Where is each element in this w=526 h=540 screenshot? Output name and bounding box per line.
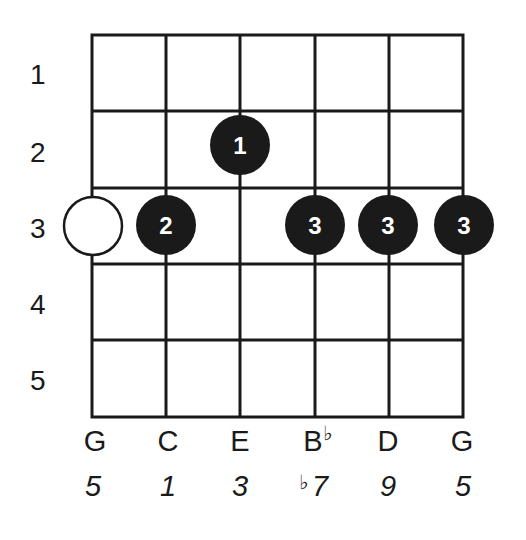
fret-number-4: 4 (30, 289, 46, 320)
interval-label: 3 (232, 470, 248, 502)
fret-number-1: 1 (30, 59, 46, 90)
finger-number: 1 (233, 132, 246, 159)
fret-numbers: 1 2 3 4 5 (30, 59, 46, 396)
note-name: B (303, 425, 322, 457)
interval-label: 5 (455, 470, 472, 502)
finger-dot: 1 (210, 115, 270, 175)
open-root-circle-icon (64, 197, 122, 255)
finger-number: 3 (381, 212, 394, 239)
note-name: E (230, 425, 249, 457)
intervals: 5 1 3 ♭ 7 9 5 (85, 470, 472, 502)
finger-number: 3 (457, 212, 470, 239)
fret-number-3: 3 (30, 213, 46, 244)
finger-dots: 2 1 3 3 3 (64, 115, 494, 255)
note-name: D (378, 425, 399, 457)
note-name: G (451, 425, 474, 457)
note-names: G C E B ♭ D G (84, 421, 474, 457)
interval-label: 9 (380, 470, 396, 502)
chord-diagram: 1 2 3 4 5 2 1 3 3 3 G C E B (0, 0, 526, 540)
interval-label: 1 (160, 470, 176, 502)
interval-label: 7 (312, 470, 330, 502)
finger-dot: 2 (136, 195, 196, 255)
finger-dot: 3 (434, 195, 494, 255)
finger-dot: 3 (285, 195, 345, 255)
flat-accidental: ♭ (299, 470, 308, 494)
finger-dot: 3 (358, 195, 418, 255)
fret-number-2: 2 (30, 137, 46, 168)
note-name: G (84, 425, 107, 457)
interval-label: 5 (85, 470, 102, 502)
finger-number: 3 (308, 212, 321, 239)
flat-accidental: ♭ (323, 421, 332, 445)
fret-number-5: 5 (30, 365, 46, 396)
note-name: C (158, 425, 179, 457)
finger-number: 2 (159, 212, 172, 239)
